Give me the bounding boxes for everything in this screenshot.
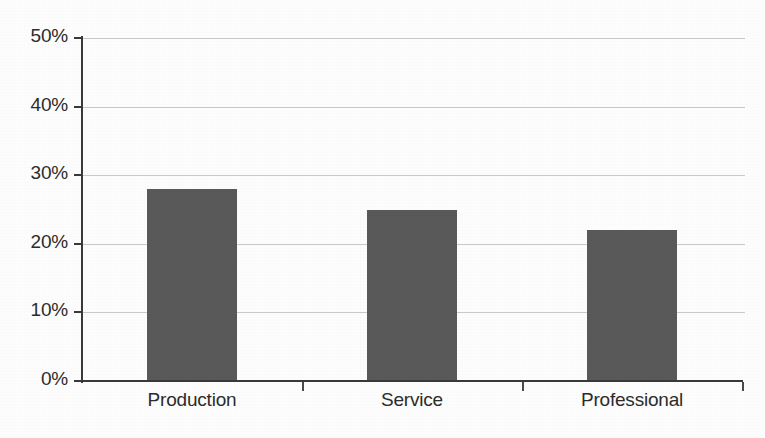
y-tick-0 [74, 380, 82, 382]
y-tick-40 [74, 106, 82, 108]
x-axis-label-professional: Professional [522, 389, 742, 411]
x-axis-line [82, 380, 743, 382]
y-tick-20 [74, 243, 82, 245]
y-axis-label-40: 40% [6, 94, 68, 116]
y-tick-30 [74, 174, 82, 176]
plot-area [82, 38, 745, 381]
gridline-40 [82, 107, 745, 108]
bar-service [367, 210, 457, 382]
y-axis-label-0: 0% [6, 368, 68, 390]
y-axis-label-50: 50% [6, 25, 68, 47]
y-axis-line [81, 36, 83, 383]
bar-professional [587, 230, 677, 381]
y-axis-label-30: 30% [6, 162, 68, 184]
x-axis-label-production: Production [82, 389, 302, 411]
y-tick-50 [74, 37, 82, 39]
y-axis-label-20: 20% [6, 231, 68, 253]
bar-production [147, 189, 237, 381]
y-tick-10 [74, 311, 82, 313]
gridline-50 [82, 38, 745, 39]
x-axis-label-service: Service [302, 389, 522, 411]
x-tick-3 [742, 382, 744, 391]
gridline-30 [82, 175, 745, 176]
y-axis-label-10: 10% [6, 299, 68, 321]
bar-chart: 0%10%20%30%40%50% ProductionServiceProfe… [0, 0, 765, 438]
